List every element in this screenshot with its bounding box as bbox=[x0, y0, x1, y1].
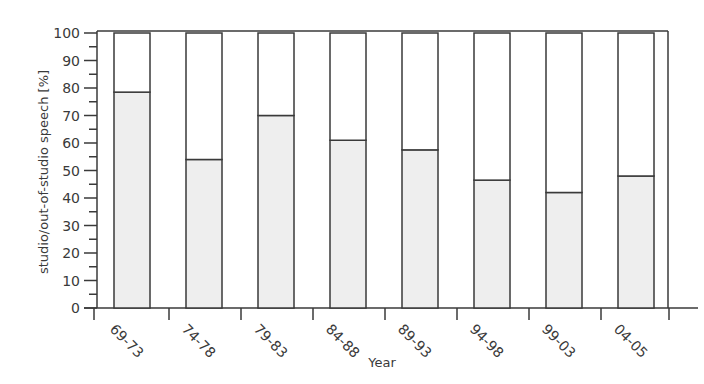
x-tick-label: 99-03 bbox=[539, 321, 579, 361]
bar-out-of-studio bbox=[546, 33, 582, 193]
y-axis-title: studio/out-of-studio speech [%] bbox=[36, 70, 51, 274]
bar-studio bbox=[330, 140, 366, 308]
bar-out-of-studio bbox=[330, 33, 366, 140]
y-tick-label: 100 bbox=[53, 25, 80, 41]
y-tick-label: 60 bbox=[62, 135, 80, 151]
y-tick-label: 80 bbox=[62, 80, 80, 96]
x-tick-label: 04-05 bbox=[611, 321, 651, 361]
y-tick-label: 50 bbox=[62, 163, 80, 179]
bar-studio bbox=[402, 150, 438, 308]
bar-out-of-studio bbox=[402, 33, 438, 150]
x-tick-label: 69-73 bbox=[107, 321, 147, 361]
y-tick-label: 30 bbox=[62, 218, 80, 234]
x-tick-label: 74-78 bbox=[179, 321, 219, 361]
bar-out-of-studio bbox=[474, 33, 510, 180]
bars bbox=[114, 33, 654, 308]
y-tick-label: 0 bbox=[71, 300, 80, 316]
bar-studio bbox=[258, 116, 294, 309]
y-tick-label: 40 bbox=[62, 190, 80, 206]
bar-studio bbox=[186, 160, 222, 309]
x-tick-label: 94-98 bbox=[467, 321, 507, 361]
bar-studio bbox=[546, 193, 582, 309]
bar-studio bbox=[114, 92, 150, 308]
x-tick-label: 79-83 bbox=[251, 321, 291, 361]
x-tick-label: 89-93 bbox=[395, 321, 435, 361]
bar-studio bbox=[474, 180, 510, 308]
x-tick-label: 84-88 bbox=[323, 321, 363, 361]
y-tick-label: 10 bbox=[62, 273, 80, 289]
bar-out-of-studio bbox=[258, 33, 294, 116]
bar-out-of-studio bbox=[186, 33, 222, 160]
y-tick-label: 70 bbox=[62, 108, 80, 124]
bar-out-of-studio bbox=[618, 33, 654, 176]
bar-out-of-studio bbox=[114, 33, 150, 92]
stacked-bar-chart: 0102030405060708090100 69-7374-7879-8384… bbox=[0, 0, 704, 384]
x-axis-title: Year bbox=[367, 355, 396, 370]
x-axis: 69-7374-7879-8384-8889-9394-9899-0304-05 bbox=[84, 308, 698, 361]
y-tick-label: 20 bbox=[62, 245, 80, 261]
bar-studio bbox=[618, 176, 654, 308]
y-tick-label: 90 bbox=[62, 53, 80, 69]
